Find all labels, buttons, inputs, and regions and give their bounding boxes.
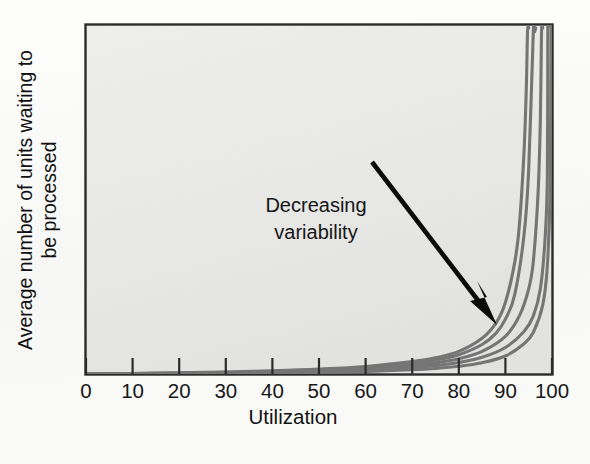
- annotation-line-1: Decreasing: [265, 194, 366, 216]
- chart-canvas: Decreasing variability 01020304050607080…: [0, 0, 590, 464]
- y-axis-title-line-1: Average number of units waiting to: [14, 50, 36, 350]
- annotation-line-2: variability: [274, 221, 357, 243]
- x-axis-tick-label: 60: [354, 379, 377, 402]
- y-axis-title-line-2: be processed: [38, 141, 60, 258]
- x-axis-tick-label: 30: [214, 379, 237, 402]
- x-axis-tick-label: 100: [535, 379, 569, 402]
- x-axis-tick-labels: 0102030405060708090100: [80, 379, 569, 402]
- queueing-utilization-chart: Decreasing variability 01020304050607080…: [0, 0, 590, 464]
- x-axis-tick-label: 50: [308, 379, 331, 402]
- x-axis-tick-label: 10: [121, 379, 144, 402]
- x-axis-tick-label: 80: [447, 379, 470, 402]
- x-axis-tick-label: 20: [168, 379, 191, 402]
- x-axis-tick-label: 70: [401, 379, 424, 402]
- x-axis-title: Utilization: [249, 405, 338, 428]
- y-axis-title: Average number of units waiting to be pr…: [14, 50, 60, 350]
- x-axis-tick-label: 0: [80, 379, 91, 402]
- x-axis-tick-label: 90: [494, 379, 517, 402]
- x-axis-tick-label: 40: [261, 379, 284, 402]
